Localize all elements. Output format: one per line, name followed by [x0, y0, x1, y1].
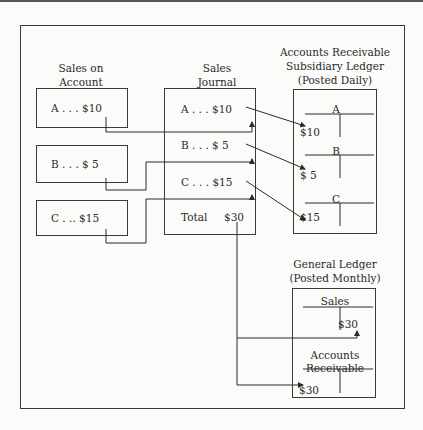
sales-journal-title-1: Sales [162, 62, 272, 75]
general-ledger-box: Sales $30 Accounts Receivable $30 [292, 288, 376, 398]
top-border [0, 0, 423, 2]
sales-journal-b: B . . . $ 5 [181, 139, 229, 152]
subsidiary-account-c-name: C [294, 193, 378, 206]
sales-on-account-a: A . . . $10 [51, 102, 102, 115]
general-ledger-title-1: General Ledger [280, 258, 390, 271]
sales-on-account-title-1: Sales on [36, 62, 126, 75]
gl-sales-credit: $30 [338, 318, 358, 331]
sales-journal-total-label: Total [181, 211, 207, 224]
general-ledger-title-2: (Posted Monthly) [280, 272, 390, 285]
subsidiary-account-b-name: B [294, 145, 378, 158]
sales-journal-a: A . . . $10 [181, 103, 232, 116]
sales-journal-total-value: $30 [224, 211, 244, 224]
sales-on-account-b-box: B . . . $ 5 [36, 145, 128, 183]
subsidiary-ledger-title-2: Subsidiary Ledger [270, 60, 400, 73]
gl-ar-name-2: Receivable [293, 362, 377, 375]
gl-ar-name-1: Accounts [293, 349, 377, 362]
subsidiary-account-b-debit: $ 5 [300, 169, 317, 182]
sales-on-account-a-box: A . . . $10 [36, 88, 128, 128]
sales-on-account-b: B . . . $ 5 [51, 158, 99, 171]
subsidiary-account-a-name: A [294, 103, 378, 116]
sales-journal-box: A . . . $10 B . . . $ 5 C . . . $15 Tota… [164, 88, 256, 235]
subsidiary-ledger-title-3: (Posted Daily) [270, 74, 400, 87]
subsidiary-account-a-debit: $10 [300, 126, 320, 139]
sales-on-account-c: C . .. $15 [51, 212, 99, 225]
gl-ar-debit: $30 [299, 384, 319, 397]
subsidiary-ledger-box: A $10 B $ 5 C $15 [293, 89, 377, 234]
sales-on-account-c-box: C . .. $15 [36, 200, 128, 236]
subsidiary-account-c-debit: $15 [300, 211, 320, 224]
gl-sales-name: Sales [293, 295, 377, 308]
sales-journal-c: C . . . $15 [181, 176, 232, 189]
subsidiary-ledger-title-1: Accounts Receivable [270, 46, 400, 59]
